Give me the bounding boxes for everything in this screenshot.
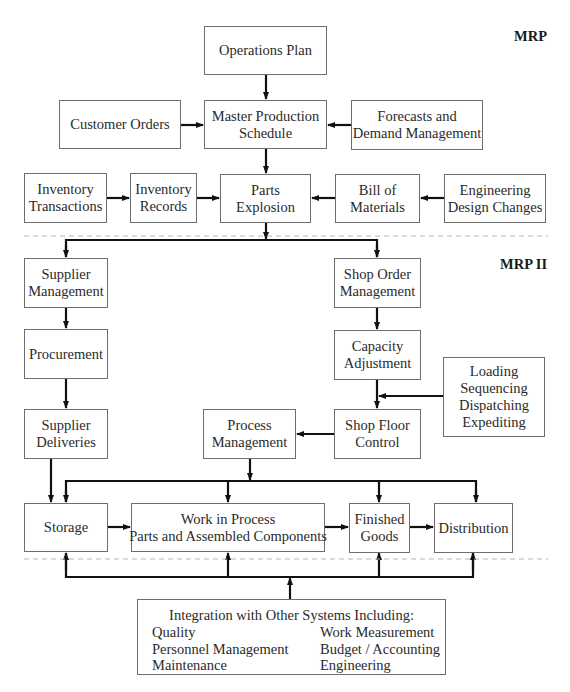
master-production-schedule-box: Master Production Schedule: [204, 100, 327, 149]
mrp-mrp2-flow-diagram: MRP MRP II Operations Plan Customer Orde…: [0, 0, 570, 692]
operations-plan-box: Operations Plan: [204, 26, 327, 75]
distribution-box: Distribution: [434, 503, 513, 553]
integration-item: Engineering: [320, 657, 440, 674]
procurement-box: Procurement: [24, 329, 108, 379]
integration-title: Integration with Other Systems Including…: [138, 607, 445, 624]
capacity-adjustment-box: Capacity Adjustment: [334, 330, 421, 380]
loading-sequencing-box: Loading Sequencing Dispatching Expeditin…: [443, 357, 545, 437]
finished-goods-box: Finished Goods: [349, 503, 410, 553]
integration-item: Personnel Management: [152, 641, 289, 658]
supplier-deliveries-box: Supplier Deliveries: [24, 409, 108, 459]
shop-floor-control-box: Shop Floor Control: [334, 409, 421, 459]
forecasts-box: Forecasts and Demand Management: [351, 100, 483, 150]
integration-item: Work Measurement: [320, 624, 440, 641]
bill-of-materials-box: Bill of Materials: [335, 174, 420, 223]
customer-orders-box: Customer Orders: [59, 100, 181, 149]
integration-item: Quality: [152, 624, 289, 641]
parts-explosion-box: Parts Explosion: [220, 174, 311, 223]
engineering-design-changes-box: Engineering Design Changes: [444, 174, 546, 223]
integration-item: Budget / Accounting: [320, 641, 440, 658]
supplier-management-box: Supplier Management: [24, 258, 108, 308]
integration-left-list: Quality Personnel Management Maintenance: [152, 624, 289, 674]
inventory-records-box: Inventory Records: [130, 173, 197, 223]
work-in-process-box: Work in Process Parts and Assembled Comp…: [131, 503, 325, 552]
inventory-transactions-box: Inventory Transactions: [24, 173, 107, 223]
integration-box: Integration with Other Systems Including…: [137, 599, 446, 675]
process-management-box: Process Management: [203, 409, 296, 459]
mrp2-section-label: MRP II: [500, 256, 547, 273]
storage-box: Storage: [24, 503, 108, 552]
integration-right-list: Work Measurement Budget / Accounting Eng…: [320, 624, 440, 674]
shop-order-management-box: Shop Order Management: [334, 258, 421, 308]
integration-item: Maintenance: [152, 657, 289, 674]
mrp-section-label: MRP: [514, 28, 547, 45]
